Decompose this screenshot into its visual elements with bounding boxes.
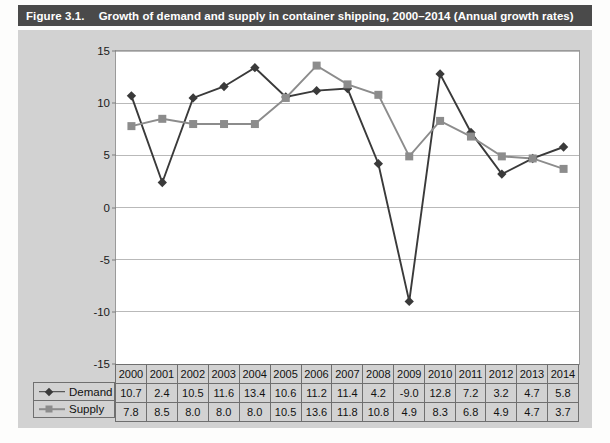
y-axis-label: -5 [100,254,110,266]
table-cell-supply: 13.6 [301,403,332,422]
chart-legend: Demand Supply [33,382,115,418]
table-header-year: 2013 [516,365,547,384]
figure-container: Figure 3.1. Growth of demand and supply … [0,0,610,443]
table-cell-supply: 8.5 [146,403,177,422]
data-point-demand [312,86,321,95]
table-row: 10.72.410.511.613.410.611.211.44.2-9.012… [116,384,579,403]
table-cell-supply: 8.0 [208,403,239,422]
table-cell-demand: 10.7 [116,384,147,403]
data-point-demand [188,93,197,102]
table-cell-demand: 11.6 [208,384,239,403]
table-cell-demand: 11.2 [301,384,332,403]
data-table: 2000200120022003200420052006200720082009… [115,364,579,422]
data-point-supply [220,120,228,128]
data-point-supply [251,120,259,128]
y-axis-label: -15 [93,358,110,370]
table-header-year: 2008 [363,365,394,384]
table-row: 7.88.58.08.08.010.513.611.810.84.98.36.8… [116,403,579,422]
table-header-year: 2000 [116,365,147,384]
table-cell-supply: 4.9 [394,403,425,422]
table-header-year: 2006 [301,365,332,384]
table-cell-demand: 11.4 [332,384,363,403]
y-axis-label: 15 [97,45,110,57]
table-cell-demand: 10.5 [177,384,208,403]
table-header-year: 2012 [486,365,517,384]
data-point-supply [529,154,537,162]
supply-marker-icon [39,403,65,415]
data-point-supply [158,115,166,123]
table-row: 2000200120022003200420052006200720082009… [116,365,579,384]
table-header-year: 2001 [146,365,177,384]
table-cell-supply: 8.0 [239,403,270,422]
series-line-demand [131,68,563,302]
data-point-supply [313,62,321,70]
table-header-year: 2004 [239,365,270,384]
data-point-supply [405,152,413,160]
data-point-supply [560,165,568,173]
table-cell-supply: 3.7 [547,403,578,422]
table-cell-demand: 5.8 [547,384,578,403]
data-point-demand [158,178,167,187]
y-axis-label: -10 [93,306,110,318]
table-cell-supply: 7.8 [116,403,147,422]
legend-item-supply[interactable]: Supply [33,400,115,418]
table-cell-supply: 11.8 [332,403,363,422]
table-cell-supply: 8.3 [425,403,456,422]
table-cell-demand: 4.7 [516,384,547,403]
figure-title-text: Growth of demand and supply in container… [99,10,574,22]
demand-marker-icon [39,386,65,398]
data-point-supply [436,117,444,125]
chart-plot-area: 151050-5-10-15 [115,50,580,365]
table-header-year: 2014 [547,365,578,384]
table-header-year: 2011 [456,365,486,384]
table-cell-supply: 4.7 [516,403,547,422]
table-cell-demand: 3.2 [486,384,517,403]
data-point-supply [282,94,290,102]
table-header-year: 2009 [394,365,425,384]
table-cell-demand: 2.4 [146,384,177,403]
figure-number: Figure 3.1. [26,10,85,22]
y-axis-label: 10 [97,97,110,109]
table-cell-demand: 4.2 [363,384,394,403]
data-point-demand [405,297,414,306]
data-point-supply [467,133,475,141]
y-axis-label: 0 [104,202,110,214]
y-axis-label: 5 [104,149,110,161]
table-cell-demand: -9.0 [394,384,425,403]
table-cell-supply: 10.5 [270,403,301,422]
data-point-demand [127,91,136,100]
table-header-year: 2003 [208,365,239,384]
data-point-supply [127,122,135,130]
data-point-demand [559,142,568,151]
legend-item-demand[interactable]: Demand [33,382,115,400]
table-header-year: 2007 [332,365,363,384]
legend-label-supply: Supply [69,403,104,415]
table-cell-supply: 10.8 [363,403,394,422]
chart-series-layer [116,51,579,364]
table-header-year: 2010 [425,365,456,384]
table-cell-supply: 6.8 [456,403,486,422]
table-cell-supply: 8.0 [177,403,208,422]
table-cell-demand: 13.4 [239,384,270,403]
data-point-supply [189,120,197,128]
data-point-supply [344,80,352,88]
table-cell-demand: 7.2 [456,384,486,403]
table-cell-supply: 4.9 [486,403,517,422]
data-point-supply [374,91,382,99]
figure-title-bar: Figure 3.1. Growth of demand and supply … [18,5,592,26]
data-point-supply [498,152,506,160]
table-cell-demand: 10.6 [270,384,301,403]
table-header-year: 2002 [177,365,208,384]
data-point-demand [435,69,444,78]
table-cell-demand: 12.8 [425,384,456,403]
data-point-demand [219,82,228,91]
data-point-demand [374,159,383,168]
table-header-year: 2005 [270,365,301,384]
legend-label-demand: Demand [69,386,112,398]
